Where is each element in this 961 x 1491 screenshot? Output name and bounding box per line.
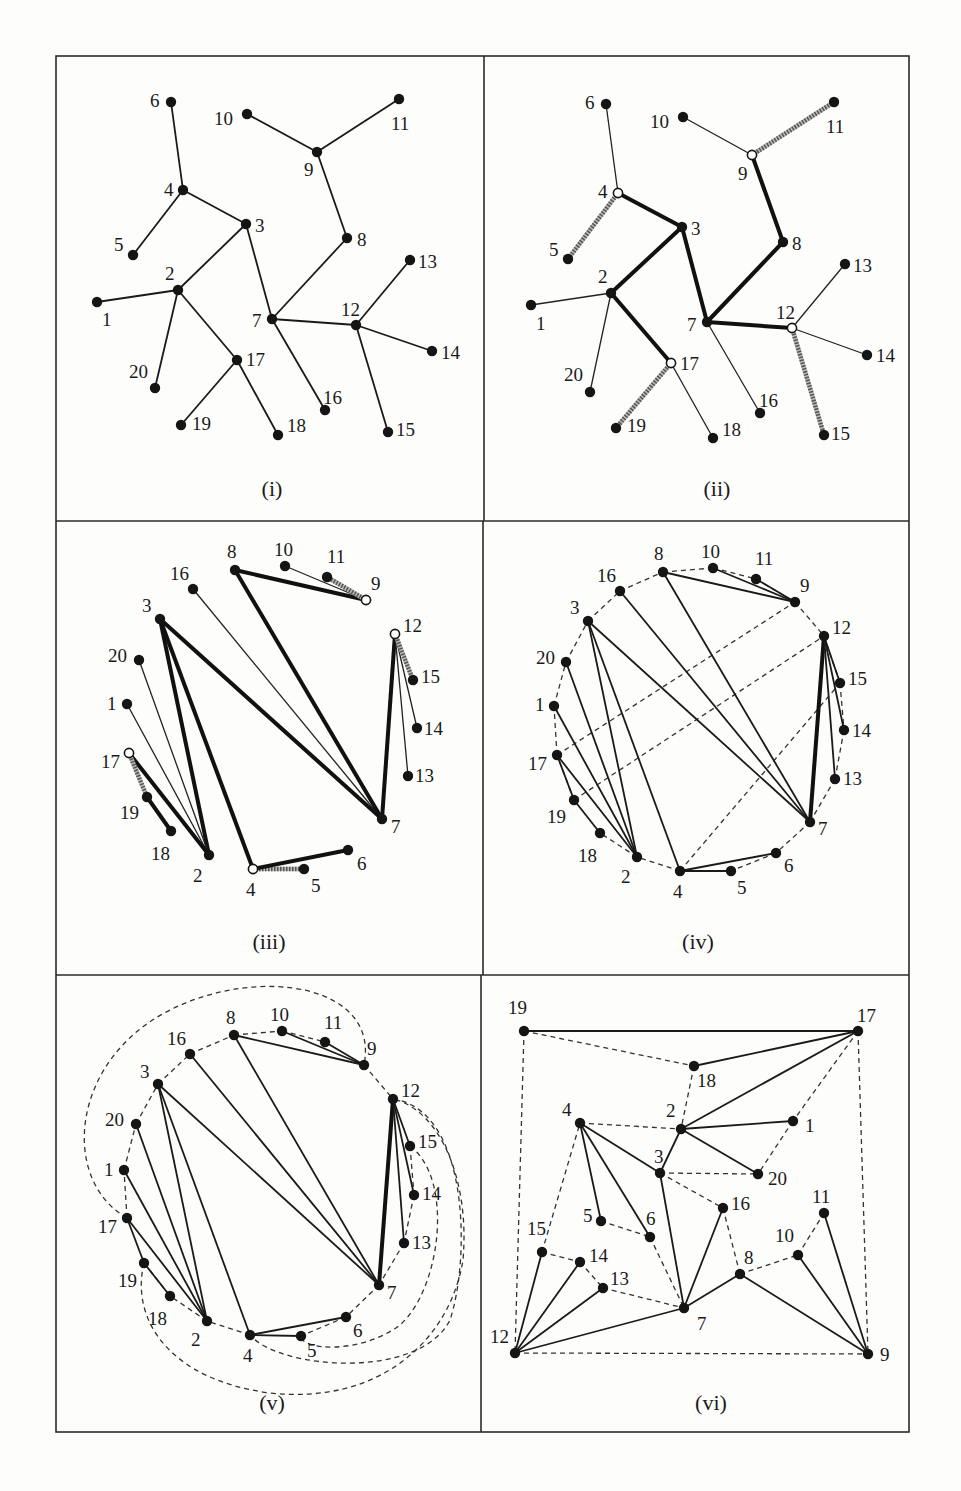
edge-9-10	[683, 117, 752, 155]
node-label: 1	[107, 693, 117, 714]
node-19	[519, 1026, 529, 1036]
node-4	[575, 1118, 585, 1128]
node-label: 10	[214, 108, 233, 129]
edge-16-8	[190, 1035, 234, 1054]
edge-13-7	[603, 1288, 684, 1308]
node-7	[374, 1280, 384, 1290]
node-label: 3	[142, 595, 152, 616]
node-14	[839, 725, 849, 735]
edge-10-9	[713, 568, 795, 602]
panel-v: 1234567891011121314151617181920(v)	[84, 986, 464, 1415]
edge-8-9	[235, 570, 366, 600]
edge-8-10	[663, 568, 713, 572]
edge-2-1	[531, 293, 611, 305]
node-1	[788, 1116, 798, 1126]
node-label: 20	[768, 1168, 787, 1189]
node-label: 2	[165, 263, 175, 284]
node-8	[658, 567, 668, 577]
node-label: 20	[564, 364, 583, 385]
node-10	[678, 112, 688, 122]
node-12	[819, 631, 829, 641]
edge-19-12	[574, 636, 824, 800]
node-label: 20	[108, 645, 127, 666]
node-label: 11	[826, 116, 844, 137]
edge-11-9	[756, 579, 795, 602]
node-12	[390, 629, 399, 638]
edge-19-12	[515, 1031, 524, 1353]
node-label: 13	[415, 765, 434, 786]
node-6	[341, 1312, 351, 1322]
node-label: 3	[255, 215, 265, 236]
node-20	[585, 387, 595, 397]
node-label: 15	[421, 666, 440, 687]
node-label: 20	[105, 1109, 124, 1130]
node-7	[377, 814, 387, 824]
edge-6-5	[301, 1317, 346, 1336]
node-label: 16	[759, 390, 778, 411]
node-3	[655, 1168, 665, 1178]
node-label: 18	[287, 415, 306, 436]
node-19	[569, 795, 579, 805]
panel-caption: (vi)	[695, 1390, 727, 1415]
node-label: 14	[589, 1245, 609, 1266]
node-label: 17	[528, 753, 547, 774]
edge-17-19	[127, 1218, 144, 1263]
edges	[97, 99, 432, 435]
node-label: 16	[170, 563, 189, 584]
node-19	[176, 420, 186, 430]
edge-7-8	[235, 570, 382, 819]
panel-caption: (iv)	[682, 929, 714, 954]
node-label: 3	[654, 1146, 664, 1167]
edge-4-2	[580, 1123, 681, 1129]
node-label: 9	[800, 575, 810, 596]
edge-8-9	[234, 1035, 364, 1065]
node-label: 4	[246, 879, 256, 900]
edge-4-5	[250, 1335, 301, 1336]
node-label: 12	[776, 302, 795, 323]
node-label: 6	[353, 1320, 363, 1341]
node-label: 5	[114, 234, 124, 255]
node-15	[408, 675, 418, 685]
edge-8-9	[663, 572, 795, 602]
node-20	[134, 655, 144, 665]
node-5	[563, 254, 573, 264]
node-label: 9	[304, 159, 314, 180]
node-20	[150, 383, 160, 393]
edge-9-12	[795, 602, 824, 636]
node-label: 15	[848, 668, 867, 689]
node-9	[359, 1060, 369, 1070]
node-label: 13	[610, 1268, 629, 1289]
edge-3-2	[178, 224, 246, 290]
node-20	[753, 1169, 763, 1179]
node-20	[561, 657, 571, 667]
node-label: 4	[598, 181, 608, 202]
node-label: 14	[876, 345, 896, 366]
node-label: 8	[792, 233, 802, 254]
node-2	[173, 285, 183, 295]
node-2	[632, 852, 642, 862]
node-10	[793, 1250, 803, 1260]
node-label: 14	[441, 342, 461, 363]
node-14	[575, 1257, 585, 1267]
node-label: 18	[722, 419, 741, 440]
node-label: 12	[401, 1080, 420, 1101]
node-12	[388, 1094, 398, 1104]
edge-4-3	[183, 190, 246, 224]
edge-20-2	[566, 662, 637, 857]
edge-15-14	[542, 1252, 580, 1262]
node-label: 8	[744, 1247, 754, 1268]
edge-3-7	[246, 224, 272, 319]
edge-9-10	[247, 114, 317, 152]
node-label: 11	[391, 113, 409, 134]
edge-12-13	[792, 264, 845, 328]
edge-8-7	[663, 572, 810, 822]
node-9	[747, 150, 756, 159]
node-7	[679, 1303, 689, 1313]
node-7	[267, 314, 277, 324]
edge-3-7	[158, 1084, 379, 1285]
edge-6-5	[731, 853, 776, 871]
node-label: 8	[357, 229, 367, 250]
node-label: 10	[775, 1225, 794, 1246]
edge-8-10	[234, 1031, 282, 1035]
edge-12-13	[824, 636, 835, 779]
